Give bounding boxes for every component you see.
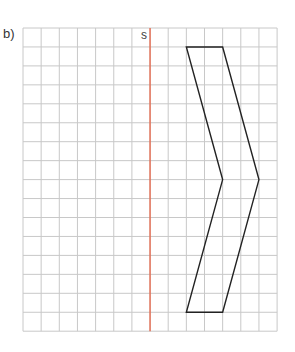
grid-diagram [0,0,295,352]
